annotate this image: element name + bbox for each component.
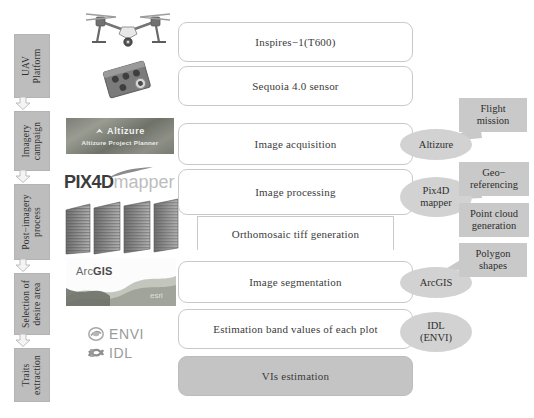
- stage-label: Traits extraction: [21, 355, 43, 395]
- flow-step-orthomosaic[interactable]: Orthomosaic tiff generation: [197, 216, 394, 250]
- software-altizure[interactable]: Altizure: [400, 129, 472, 160]
- flow-step-label: VIs estimation: [262, 370, 329, 382]
- callout-label: Geo−: [482, 167, 505, 180]
- flow-step-inspires[interactable]: Inspires−1(T600): [178, 22, 413, 62]
- envi-logo-text: ENVI: [109, 326, 144, 342]
- stage-arrow-down-icon: [15, 259, 31, 272]
- stage-label: UAV Platform: [21, 49, 43, 84]
- arcgis-logo-banner: esri ArcGIS: [66, 258, 176, 306]
- altizure-logo-title: Altizure: [95, 126, 145, 136]
- arcgis-word-suffix: GIS: [93, 265, 113, 277]
- pix4d-word-ix: IX: [76, 172, 92, 192]
- flow-step-label: Inspires−1(T600): [255, 36, 335, 48]
- callout-label: shapes: [479, 260, 507, 273]
- callout-label: Point cloud: [470, 208, 518, 221]
- software-label: ArcGIS: [420, 277, 453, 289]
- stage-traits-extraction: Traits extraction: [14, 348, 50, 402]
- stage-label-line: campaign: [32, 122, 43, 161]
- envi-mark-icon: [88, 327, 104, 341]
- callout-label: referencing: [470, 179, 518, 192]
- stage-arrow-down-icon: [15, 334, 31, 347]
- stage-label-line: process: [32, 194, 43, 249]
- stage-label-line: Imagery: [21, 122, 32, 161]
- envi-logo-row: ENVI: [88, 326, 178, 342]
- callout-label: mission: [477, 115, 510, 128]
- drone-photo: [82, 8, 174, 54]
- flow-step-sequoia[interactable]: Sequoia 4.0 sensor: [178, 66, 413, 106]
- altizure-mark-icon: [95, 127, 104, 136]
- idl-logo-text: IDL: [109, 345, 133, 361]
- flow-step-image-acquisition[interactable]: Image acquisition: [178, 123, 413, 165]
- software-label: (ENVI): [420, 332, 452, 344]
- flow-step-label: Estimation band values of each plot: [213, 323, 377, 335]
- orthomosaic-tiles-image: [64, 196, 180, 258]
- callout-label: Flight: [480, 103, 505, 116]
- stage-label: Post−imagery process: [21, 194, 43, 249]
- flow-step-label: Image segmentation: [249, 276, 342, 288]
- flow-step-image-segmentation[interactable]: Image segmentation: [178, 261, 413, 303]
- arcgis-word-prefix: Arc: [76, 265, 93, 277]
- stage-uav-platform: UAV Platform: [14, 34, 50, 98]
- idl-logo-row: IDL: [88, 345, 178, 361]
- idl-mark-icon: [88, 346, 104, 360]
- flow-step-vis-estimation[interactable]: VIs estimation: [178, 356, 413, 396]
- workflow-diagram: UAV Platform Imagery campaign Post−image…: [0, 0, 534, 418]
- software-idl-envi[interactable]: IDL (ENVI): [400, 312, 472, 352]
- software-label: IDL: [427, 320, 445, 332]
- altizure-logo-subtitle: Altizure Project Planner: [82, 139, 159, 146]
- stage-label-line: Platform: [32, 49, 43, 84]
- software-label: Altizure: [419, 139, 453, 151]
- callout-geo-referencing[interactable]: Geo− referencing: [459, 162, 529, 196]
- stage-selection-of-desire-area: Selection of desire area: [14, 273, 50, 335]
- flow-step-label: Image processing: [255, 186, 335, 198]
- callout-flight-mission[interactable]: Flight mission: [459, 98, 527, 132]
- altizure-logo-banner: Altizure Altizure Project Planner: [66, 118, 174, 154]
- altizure-logo-text: Altizure: [107, 126, 145, 136]
- flow-step-label: Sequoia 4.0 sensor: [252, 80, 338, 92]
- stage-label-line: Selection of: [21, 280, 32, 328]
- flow-step-label: Image acquisition: [255, 138, 337, 150]
- flow-step-image-processing[interactable]: Image processing: [178, 169, 413, 215]
- arcgis-wordmark: ArcGIS: [76, 265, 113, 277]
- software-label: mapper: [420, 197, 452, 209]
- pix4d-word-p: P: [64, 172, 76, 192]
- stage-imagery-campaign: Imagery campaign: [14, 111, 50, 171]
- svg-text:esri: esri: [150, 291, 163, 300]
- stage-label: Imagery campaign: [21, 122, 43, 161]
- stage-label-line: UAV: [21, 49, 32, 84]
- callout-polygon-shapes[interactable]: Polygon shapes: [459, 243, 527, 277]
- stage-label-line: Post−imagery: [21, 194, 32, 249]
- stage-post-imagery-process: Post−imagery process: [14, 184, 50, 260]
- stage-label-line: extraction: [32, 355, 43, 395]
- software-label: Pix4D: [423, 185, 450, 197]
- stage-label-line: Traits: [21, 355, 32, 395]
- pix4d-swoosh-icon: [108, 167, 154, 179]
- callout-point-cloud-generation[interactable]: Point cloud generation: [459, 203, 529, 237]
- callout-label: generation: [472, 220, 516, 233]
- sequoia-sensor-photo: [96, 58, 158, 102]
- stage-label-line: desire area: [32, 280, 43, 328]
- callout-label: Polygon: [475, 248, 510, 261]
- stage-label: Selection of desire area: [21, 280, 43, 328]
- stage-arrow-down-icon: [15, 97, 31, 110]
- stage-arrow-down-icon: [15, 170, 31, 183]
- pix4dmapper-logo: PIX4Dmapper: [64, 172, 182, 198]
- flow-step-band-values[interactable]: Estimation band values of each plot: [178, 309, 413, 349]
- flow-step-label: Orthomosaic tiff generation: [232, 228, 359, 240]
- envi-idl-logos: ENVI IDL: [88, 326, 178, 370]
